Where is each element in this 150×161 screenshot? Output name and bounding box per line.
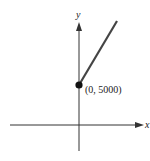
graph: y x (0, 5000): [0, 0, 150, 161]
x-axis-label: x: [144, 119, 150, 130]
data-line: [79, 21, 117, 85]
x-axis-arrow-icon: [135, 122, 144, 128]
point-marker: [75, 81, 82, 88]
y-axis-arrow-icon: [76, 22, 82, 31]
graph-svg: y x (0, 5000): [0, 0, 150, 161]
y-axis-label: y: [75, 9, 81, 20]
point-label: (0, 5000): [85, 84, 122, 96]
